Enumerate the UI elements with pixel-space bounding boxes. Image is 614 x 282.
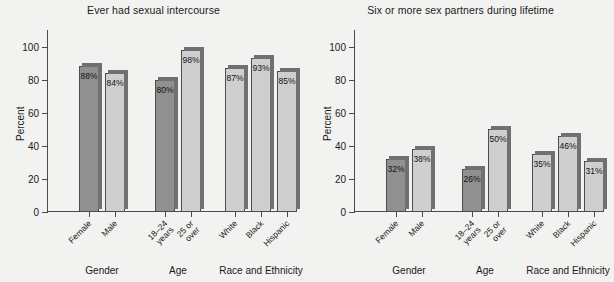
panel-left: Ever had sexual intercourse 020406080100… — [0, 0, 307, 282]
x-axis-group-label: Gender — [85, 265, 118, 276]
bar: 26% — [462, 169, 482, 212]
y-axis-tick — [349, 113, 355, 114]
bar: 31% — [584, 161, 604, 212]
plot-area-right: 020406080100Percent32%Female38%Male26%18… — [354, 30, 602, 212]
y-axis-tick-label: 100 — [9, 41, 39, 52]
bar: 85% — [277, 71, 297, 212]
y-axis-tick-label: 80 — [316, 74, 346, 85]
bar: 84% — [105, 73, 125, 212]
bar: 93% — [251, 58, 271, 212]
bar-right-shadow — [98, 63, 102, 209]
bar-value-label: 84% — [106, 78, 124, 88]
x-axis-tick — [542, 212, 543, 217]
bar-right-shadow — [603, 158, 607, 209]
y-axis-tick-label: 20 — [9, 173, 39, 184]
y-axis-tick — [42, 212, 48, 213]
y-axis-tick — [349, 47, 355, 48]
y-axis-tick-label: 40 — [316, 140, 346, 151]
y-axis-line-left — [47, 30, 48, 212]
bar: 32% — [386, 159, 406, 212]
bar: 88% — [79, 66, 99, 212]
panel-right: Six or more sex partners during lifetime… — [307, 0, 614, 282]
bar-value-label: 93% — [252, 63, 270, 73]
x-axis-tick — [261, 212, 262, 217]
bar-value-label: 85% — [278, 76, 296, 86]
bar-right-shadow — [405, 156, 409, 209]
bar: 80% — [155, 80, 175, 212]
y-axis-tick — [42, 47, 48, 48]
x-axis-tick — [422, 212, 423, 217]
x-axis-group-label: Race and Ethnicity — [219, 265, 302, 276]
bar: 38% — [412, 149, 432, 212]
x-axis-tick — [396, 212, 397, 217]
x-axis-tick — [472, 212, 473, 217]
y-axis-tick-label: 100 — [316, 41, 346, 52]
bar-right-shadow — [431, 146, 435, 209]
y-axis-tick — [42, 80, 48, 81]
x-axis-tick — [498, 212, 499, 217]
bar: 46% — [558, 136, 578, 212]
y-axis-label: Percent — [322, 107, 333, 141]
y-axis-tick — [349, 80, 355, 81]
bar-value-label: 35% — [533, 159, 551, 169]
y-axis-line-right — [354, 30, 355, 212]
x-axis-tick — [235, 212, 236, 217]
y-axis-tick — [349, 212, 355, 213]
bar: 87% — [225, 68, 245, 212]
y-axis-tick-label: 0 — [316, 207, 346, 218]
bar-value-label: 32% — [387, 164, 405, 174]
x-axis-tick — [594, 212, 595, 217]
x-axis-category-label: White — [498, 219, 547, 268]
bar-value-label: 46% — [559, 141, 577, 151]
bar-value-label: 38% — [413, 154, 431, 164]
y-axis-tick — [349, 146, 355, 147]
y-axis-tick — [42, 146, 48, 147]
bar-right-shadow — [174, 77, 178, 209]
x-axis-category-label: Female — [45, 219, 94, 268]
y-axis-tick-label: 0 — [9, 207, 39, 218]
x-axis-group-label: Gender — [392, 265, 425, 276]
bar: 98% — [181, 50, 201, 212]
x-axis-tick — [568, 212, 569, 217]
x-axis-group-label: Race and Ethnicity — [526, 265, 609, 276]
bar-value-label: 31% — [585, 166, 603, 176]
bar: 35% — [532, 154, 552, 212]
bar-right-shadow — [507, 126, 511, 209]
bar-right-shadow — [481, 166, 485, 209]
bar-right-shadow — [244, 65, 248, 209]
bar-right-shadow — [124, 70, 128, 209]
bar-value-label: 88% — [80, 71, 98, 81]
chart-title-right: Six or more sex partners during lifetime — [307, 4, 614, 16]
x-axis-group-label: Age — [169, 265, 187, 276]
x-axis-tick — [165, 212, 166, 217]
x-axis-category-label: White — [191, 219, 240, 268]
y-axis-tick — [42, 179, 48, 180]
x-axis-group-label: Age — [476, 265, 494, 276]
x-axis-tick — [115, 212, 116, 217]
bar-value-label: 50% — [489, 134, 507, 144]
y-axis-label: Percent — [15, 107, 26, 141]
y-axis-tick — [42, 113, 48, 114]
bar-value-label: 80% — [156, 85, 174, 95]
x-axis-tick — [89, 212, 90, 217]
x-axis-tick — [191, 212, 192, 217]
bar: 50% — [488, 129, 508, 212]
y-axis-tick-label: 80 — [9, 74, 39, 85]
plot-area-left: 020406080100Percent88%Female84%Male80%18… — [47, 30, 295, 212]
y-axis-tick-label: 20 — [316, 173, 346, 184]
bar-right-shadow — [200, 47, 204, 209]
bar-value-label: 87% — [226, 73, 244, 83]
bar-value-label: 98% — [182, 55, 200, 65]
figure-two-panel-bar-charts: Ever had sexual intercourse 020406080100… — [0, 0, 614, 282]
bar-right-shadow — [551, 151, 555, 209]
x-axis-category-label: Female — [352, 219, 401, 268]
y-axis-tick-label: 40 — [9, 140, 39, 151]
bar-right-shadow — [270, 55, 274, 209]
bar-value-label: 26% — [463, 174, 481, 184]
bar-right-shadow — [577, 133, 581, 209]
bar-right-shadow — [296, 68, 300, 209]
chart-title-left: Ever had sexual intercourse — [0, 4, 307, 16]
x-axis-tick — [287, 212, 288, 217]
y-axis-tick — [349, 179, 355, 180]
